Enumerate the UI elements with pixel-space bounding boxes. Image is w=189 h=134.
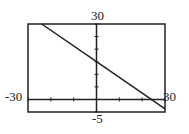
- y-max-label: 30: [91, 9, 104, 22]
- y-min-label: -5: [92, 112, 103, 125]
- data-line: [42, 24, 165, 109]
- x-max-label: 30: [163, 90, 176, 103]
- x-min-label: -30: [5, 90, 22, 103]
